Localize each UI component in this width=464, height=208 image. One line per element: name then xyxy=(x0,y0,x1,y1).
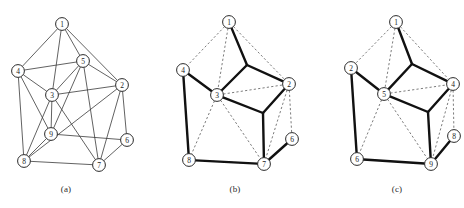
node-label-8: 8 xyxy=(22,157,26,166)
bold-edge-5-2 xyxy=(356,72,379,90)
edge-1-3 xyxy=(53,30,61,88)
panel-b-caption: (b) xyxy=(215,184,255,194)
bold-edge-1-s1 xyxy=(398,28,412,64)
edge-4-5 xyxy=(24,62,76,70)
edge-9-6 xyxy=(57,135,120,140)
edge-7-6 xyxy=(104,144,122,160)
dashed-edge-4-9 xyxy=(433,90,452,158)
edge-5-2 xyxy=(88,64,116,81)
bold-edge-4-8 xyxy=(183,76,188,153)
node-5[interactable]: 5 xyxy=(378,88,391,101)
bold-edge-3-4 xyxy=(188,74,212,91)
node-8[interactable]: 8 xyxy=(183,154,196,167)
panel-c-caption: (c) xyxy=(377,184,417,194)
node-label-9: 9 xyxy=(429,160,433,169)
node-label-7: 7 xyxy=(97,161,101,170)
node-3[interactable]: 3 xyxy=(46,89,59,102)
bold-edge-s2-9 xyxy=(428,112,431,158)
edge-9-8 xyxy=(29,139,47,157)
edge-1-4 xyxy=(22,29,57,67)
node-2[interactable]: 2 xyxy=(116,79,129,92)
dashed-edge-1-2 xyxy=(355,27,391,64)
edge-4-9 xyxy=(21,77,48,129)
dashed-edge-5-4 xyxy=(390,85,446,93)
node-label-6: 6 xyxy=(125,136,129,145)
bold-edge-s2-7 xyxy=(263,113,264,158)
node-6[interactable]: 6 xyxy=(121,134,134,147)
edge-8-7 xyxy=(30,161,92,164)
node-label-2: 2 xyxy=(349,64,353,73)
edge-4-3 xyxy=(23,75,47,92)
node-7[interactable]: 7 xyxy=(258,158,271,171)
node-label-6: 6 xyxy=(355,155,359,164)
bold-edge-s1-2 xyxy=(247,65,283,81)
bold-edge-6-9 xyxy=(363,159,424,163)
node-8[interactable]: 8 xyxy=(18,155,31,168)
node-3[interactable]: 3 xyxy=(211,89,224,102)
edge-1-2 xyxy=(66,29,117,81)
node-label-1: 1 xyxy=(227,18,231,27)
node-5[interactable]: 5 xyxy=(77,55,90,68)
bold-edge-s1-5 xyxy=(388,64,412,89)
node-6[interactable]: 6 xyxy=(351,153,364,166)
node-4[interactable]: 4 xyxy=(447,78,460,91)
node-label-7: 7 xyxy=(262,160,266,169)
panel-b-edges xyxy=(183,27,291,164)
dashed-edge-5-6 xyxy=(359,100,381,153)
node-label-1: 1 xyxy=(394,18,398,27)
node-9[interactable]: 9 xyxy=(45,128,58,141)
node-label-4: 4 xyxy=(451,80,455,89)
node-1[interactable]: 1 xyxy=(223,16,236,29)
node-4[interactable]: 4 xyxy=(12,65,25,78)
node-label-3: 3 xyxy=(50,91,54,100)
node-8[interactable]: 8 xyxy=(448,130,461,143)
node-label-3: 3 xyxy=(215,91,219,100)
bold-edge-s1-3 xyxy=(222,65,247,90)
dashed-edge-2-6 xyxy=(289,90,291,132)
node-7[interactable]: 7 xyxy=(93,159,106,172)
node-4[interactable]: 4 xyxy=(177,64,190,77)
node-1[interactable]: 1 xyxy=(390,16,403,29)
node-label-8: 8 xyxy=(187,156,191,165)
edge-1-5 xyxy=(65,30,80,56)
edge-4-8 xyxy=(18,77,23,154)
node-2[interactable]: 2 xyxy=(283,78,296,91)
bold-edge-s2-4 xyxy=(428,89,449,112)
node-label-2: 2 xyxy=(120,81,124,90)
node-label-4: 4 xyxy=(16,67,20,76)
edge-3-9 xyxy=(51,101,52,127)
bold-edge-s2-2 xyxy=(263,89,285,113)
panel-c-edges xyxy=(351,27,453,164)
node-9[interactable]: 9 xyxy=(425,158,438,171)
bold-edge-2-6 xyxy=(351,74,356,152)
edge-3-7 xyxy=(56,100,96,159)
dashed-edge-3-8 xyxy=(192,101,215,154)
bold-edge-1-s1 xyxy=(231,28,247,65)
graph-figure-canvas: 123456789 1234678 1245689 xyxy=(0,0,464,208)
node-6[interactable]: 6 xyxy=(286,133,299,146)
node-1[interactable]: 1 xyxy=(56,18,69,31)
bold-edge-5-s2 xyxy=(390,96,428,112)
bold-edge-9-8 xyxy=(435,141,450,159)
node-label-5: 5 xyxy=(81,57,85,66)
edge-2-8 xyxy=(29,89,117,157)
node-label-9: 9 xyxy=(49,130,53,139)
dashed-edge-1-3 xyxy=(218,28,228,88)
bold-edge-s1-4 xyxy=(412,64,447,81)
node-label-1: 1 xyxy=(60,20,64,29)
node-label-8: 8 xyxy=(452,132,456,141)
node-label-5: 5 xyxy=(382,90,386,99)
bold-edge-3-s2 xyxy=(223,97,263,113)
dashed-edge-3-2 xyxy=(223,85,282,94)
node-label-2: 2 xyxy=(287,80,291,89)
panel-a-edges xyxy=(18,29,126,165)
panel-a-caption: (a) xyxy=(46,184,86,194)
bold-edge-8-7 xyxy=(195,160,257,163)
node-2[interactable]: 2 xyxy=(345,62,358,75)
dashed-edge-1-4 xyxy=(187,27,224,66)
edge-2-6 xyxy=(123,91,127,133)
bold-edge-7-6 xyxy=(269,143,287,159)
node-label-4: 4 xyxy=(181,66,185,75)
dashed-edge-4-8 xyxy=(453,90,454,129)
node-label-6: 6 xyxy=(290,135,294,144)
